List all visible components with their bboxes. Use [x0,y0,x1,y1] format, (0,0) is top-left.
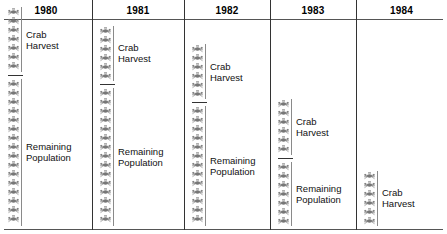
group-label-crab-harvest: Crab Harvest [382,187,415,209]
group-bracket [205,106,206,226]
crab-icon [278,162,289,171]
year-header-1983: 1983 [270,0,356,20]
crab-icon [192,53,203,62]
crab-icon [8,160,19,169]
crab-icon [100,97,111,106]
crab-icon [192,187,203,196]
crab-icon [192,124,203,133]
crab-icon [100,62,111,71]
crab-population-pictogram: 19801981198219831984 Crab HarvestRemaini… [0,0,447,234]
crab-icon [278,189,289,198]
crab-icon [100,205,111,214]
year-header-label: 1984 [390,5,413,16]
group-remaining-population-1983: Remaining Population [278,162,341,226]
group-separator-rule [8,75,23,76]
year-column-1982: Crab HarvestRemaining Population [184,20,270,230]
group-crab-harvest-1980: Crab Harvest [8,7,59,71]
group-crab-harvest-1983: Crab Harvest [278,99,329,154]
crab-icon [100,133,111,142]
crab-icon [8,61,19,70]
crab-icon [8,178,19,187]
crab-icon [8,205,19,214]
crab-icon [8,25,19,34]
crab-icon [8,16,19,25]
pictogram-body: Crab HarvestRemaining PopulationCrab Har… [0,20,447,230]
crab-icon [100,160,111,169]
year-header-label: 1981 [126,5,149,16]
crab-icon [100,142,111,151]
crab-icon [192,106,203,115]
crab-icon [100,115,111,124]
crab-icon [192,151,203,160]
group-bracket [21,7,22,71]
crab-icon [278,117,289,126]
crab-icon [100,88,111,97]
group-remaining-population-1981: Remaining Population [100,88,163,226]
crab-icon [364,216,375,225]
group-crab-harvest-1982: Crab Harvest [192,44,243,99]
group-separator-rule [278,158,293,159]
crab-icon [192,80,203,89]
crab-icon [8,133,19,142]
crab-icon [8,115,19,124]
group-label-remaining-population: Remaining Population [296,183,341,205]
crab-icon [278,198,289,207]
column-divider-3 [270,0,271,230]
crab-icon [100,106,111,115]
group-crab-harvest-1981: Crab Harvest [100,26,151,81]
crab-icon [100,178,111,187]
crab-icon [100,169,111,178]
crab-icon [8,79,19,88]
year-header-label: 1983 [301,5,324,16]
crab-icon [100,53,111,62]
crab-icon [8,196,19,205]
group-bracket [205,44,206,99]
crab-icon [100,151,111,160]
crab-icon [8,97,19,106]
crab-icon [278,135,289,144]
crab-icon [100,71,111,80]
group-bracket [113,88,114,226]
crab-icon [100,26,111,35]
group-separator-rule [192,102,207,103]
crab-icon [278,216,289,225]
crab-icon [278,108,289,117]
crab-icon [8,106,19,115]
crab-icon [8,52,19,61]
crab-icon [278,99,289,108]
group-remaining-population-1980: Remaining Population [8,79,71,226]
crab-icon [8,34,19,43]
group-label-crab-harvest: Crab Harvest [118,42,151,64]
crab-icon [192,133,203,142]
icon-stack-crab-harvest [192,44,203,99]
crab-icon [8,88,19,97]
crab-icon [192,62,203,71]
group-bracket [291,99,292,154]
crab-icon [364,180,375,189]
crab-icon [192,89,203,98]
group-bracket [113,26,114,81]
year-column-1980: Crab HarvestRemaining Population [0,20,92,230]
year-header-1982: 1982 [184,0,270,20]
crab-icon [8,187,19,196]
crab-icon [192,214,203,223]
group-label-crab-harvest: Crab Harvest [296,116,329,138]
crab-icon [192,115,203,124]
crab-icon [278,171,289,180]
crab-icon [8,142,19,151]
crab-icon [192,44,203,53]
icon-stack-crab-harvest [278,99,289,154]
group-remaining-population-1982: Remaining Population [192,106,255,226]
crab-icon [100,187,111,196]
group-crab-harvest-1984: Crab Harvest [364,171,415,226]
crab-icon [100,35,111,44]
crab-icon [192,71,203,80]
crab-icon [8,169,19,178]
crab-icon [192,178,203,187]
crab-icon [364,198,375,207]
crab-icon [278,126,289,135]
column-divider-1 [92,0,93,230]
group-bracket [377,171,378,226]
group-label-crab-harvest: Crab Harvest [26,29,59,51]
year-column-1984: Crab Harvest [356,20,447,230]
